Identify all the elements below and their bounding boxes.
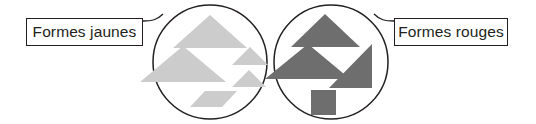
yellow-group	[140, 5, 268, 119]
connector-yellow	[143, 14, 163, 21]
red-triangle-large-middle-left	[265, 44, 350, 79]
red-triangle-large-top	[291, 14, 360, 47]
yellow-triangle-large-top	[173, 15, 247, 48]
label-box-formes-rouges[interactable]: Formes rouges	[394, 18, 508, 46]
yellow-triangle-small-lower-right	[232, 70, 266, 87]
connector-red	[374, 14, 394, 21]
red-group	[265, 5, 388, 119]
label-text-formes-jaunes: Formes jaunes	[33, 24, 137, 40]
yellow-parallelogram-bottom	[190, 91, 237, 107]
label-box-formes-jaunes[interactable]: Formes jaunes	[26, 18, 143, 46]
yellow-triangle-small-upper-right	[232, 47, 268, 65]
red-square-bottom	[311, 90, 336, 115]
diagram-canvas: Formes jaunes Formes rouges	[0, 0, 536, 124]
label-text-formes-rouges: Formes rouges	[398, 24, 504, 40]
red-right-triangle-right	[329, 44, 372, 88]
